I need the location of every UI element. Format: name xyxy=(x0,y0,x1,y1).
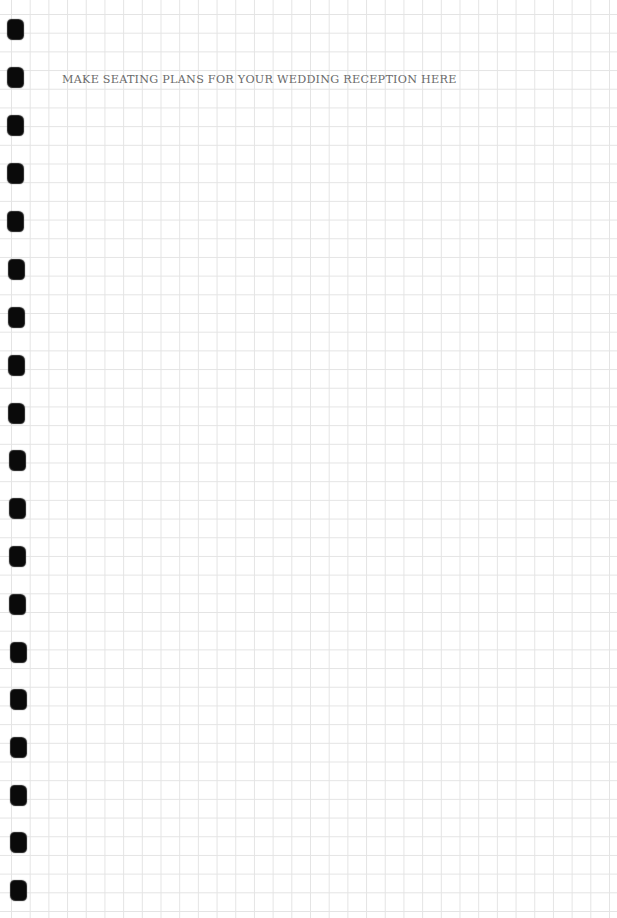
binder-hole xyxy=(10,499,25,518)
binder-hole xyxy=(10,595,25,614)
binder-hole xyxy=(11,881,26,900)
binder-hole xyxy=(9,308,24,327)
binder-holes xyxy=(0,0,40,918)
binder-hole xyxy=(9,404,24,423)
binder-hole xyxy=(8,68,23,87)
binder-hole xyxy=(10,547,25,566)
binder-hole xyxy=(8,20,23,39)
binder-hole xyxy=(11,690,26,709)
binder-hole xyxy=(10,451,25,470)
grid-paper-page: MAKE SEATING PLANS FOR YOUR WEDDING RECE… xyxy=(0,0,617,918)
page-heading: MAKE SEATING PLANS FOR YOUR WEDDING RECE… xyxy=(62,73,457,86)
binder-hole xyxy=(11,738,26,757)
binder-hole xyxy=(9,260,24,279)
binder-hole xyxy=(8,116,23,135)
binder-hole xyxy=(11,786,26,805)
binder-hole xyxy=(9,356,24,375)
binder-hole xyxy=(11,833,26,852)
binder-hole xyxy=(8,164,23,183)
binder-hole xyxy=(11,643,26,662)
binder-hole xyxy=(8,212,23,231)
